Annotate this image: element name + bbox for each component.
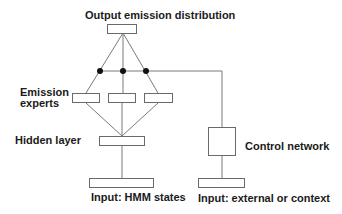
- gate-dot-2: [120, 68, 126, 74]
- gate-dot-1: [97, 68, 103, 74]
- expert-node-1: [73, 94, 100, 103]
- experts-label-line2: experts: [20, 97, 59, 109]
- output-node: [108, 25, 137, 34]
- input-hmm-label: Input: HMM states: [91, 191, 186, 203]
- mixture-of-experts-diagram: Output emission distribution Emission ex…: [0, 0, 342, 214]
- control-node: [209, 128, 236, 156]
- input-external-label: Input: external or context: [198, 192, 330, 204]
- edge-output-expert-1: [86, 33, 123, 93]
- input-hmm-node: [90, 179, 154, 188]
- hidden-label: Hidden layer: [15, 134, 82, 146]
- edge-expert-3-hidden: [122, 103, 158, 136]
- edge-expert-1-hidden: [86, 103, 122, 136]
- expert-node-3: [145, 94, 173, 103]
- gate-dot-3: [143, 68, 149, 74]
- input-external-node: [199, 179, 245, 188]
- control-label: Control network: [245, 140, 330, 152]
- expert-node-2: [109, 94, 136, 103]
- hidden-node: [100, 137, 145, 146]
- output-label: Output emission distribution: [85, 9, 236, 21]
- edge-output-expert-3: [123, 33, 158, 93]
